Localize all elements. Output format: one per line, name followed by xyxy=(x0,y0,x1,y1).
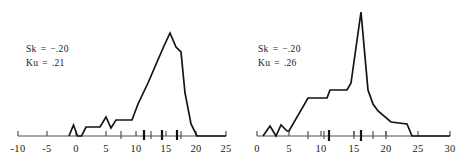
right-kurtosis-name: Ku xyxy=(258,57,270,68)
right-ticklabel-1: 5 xyxy=(286,143,292,154)
left-skew-name: Sk xyxy=(26,43,37,54)
left-ticklabel-7: 25 xyxy=(220,143,231,154)
left-ticklabel-4: 10 xyxy=(130,143,141,154)
left-distribution-curve xyxy=(69,33,226,136)
right-stats-annotation: Sk=−.20 Ku=.26 xyxy=(258,43,301,68)
left-ticklabel-3: 5 xyxy=(103,143,109,154)
right-skew-value: −.20 xyxy=(282,43,300,54)
left-kurtosis-operator: = xyxy=(42,57,48,68)
left-skew-value: −.20 xyxy=(50,43,68,54)
right-kurtosis-operator: = xyxy=(274,57,280,68)
left-ticklabel-5: 15 xyxy=(160,143,171,154)
left-skew-operator: = xyxy=(41,43,47,54)
left-ticklabel-2: 0 xyxy=(73,143,79,154)
left-tick-labels: -10 -5 0 5 10 15 20 25 xyxy=(11,143,232,154)
right-kurtosis-label: Ku=.26 xyxy=(258,57,297,68)
left-chart: -10 -5 0 5 10 15 20 25 Sk=−.20 Ku=.21 xyxy=(11,33,232,154)
right-skew-label: Sk=−.20 xyxy=(258,43,301,54)
right-tick-labels: 0 5 10 15 20 25 30 xyxy=(254,143,455,154)
left-marker-ticks xyxy=(144,130,177,140)
right-minor-ticks xyxy=(308,131,386,139)
right-skew-operator: = xyxy=(273,43,279,54)
left-ticklabel-1: -5 xyxy=(42,143,51,154)
left-skew-label: Sk=−.20 xyxy=(26,43,69,54)
left-ticklabel-6: 20 xyxy=(190,143,201,154)
right-ticklabel-2: 10 xyxy=(315,143,326,154)
right-distribution-curve xyxy=(263,12,450,136)
figure-container: -10 -5 0 5 10 15 20 25 Sk=−.20 Ku=.21 xyxy=(0,0,466,168)
right-ticklabel-6: 30 xyxy=(444,143,455,154)
left-ticklabel-0: -10 xyxy=(11,143,26,154)
right-skew-name: Sk xyxy=(258,43,269,54)
left-kurtosis-value: .21 xyxy=(52,57,65,68)
right-ticklabel-0: 0 xyxy=(254,143,260,154)
left-minor-ticks xyxy=(121,131,181,139)
left-stats-annotation: Sk=−.20 Ku=.21 xyxy=(26,43,69,68)
right-kurtosis-value: .26 xyxy=(284,57,297,68)
right-ticklabel-5: 25 xyxy=(412,143,423,154)
right-chart: 0 5 10 15 20 25 30 Sk=−.20 Ku=.26 xyxy=(254,12,455,154)
left-kurtosis-label: Ku=.21 xyxy=(26,57,65,68)
left-kurtosis-name: Ku xyxy=(26,57,38,68)
distributions-svg: -10 -5 0 5 10 15 20 25 Sk=−.20 Ku=.21 xyxy=(0,0,466,168)
right-ticklabel-4: 20 xyxy=(380,143,391,154)
right-ticklabel-3: 15 xyxy=(348,143,359,154)
